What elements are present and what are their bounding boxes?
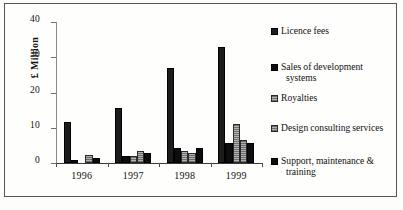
bar xyxy=(122,156,129,163)
legend-item[interactable]: Sales of developmentsystems xyxy=(271,62,395,83)
legend-label-line2: training xyxy=(281,167,374,178)
bar xyxy=(144,153,151,163)
x-axis-tick-mark xyxy=(159,163,160,167)
legend-label: Design consulting services xyxy=(281,123,383,134)
bar-group xyxy=(159,22,211,163)
legend-swatch-icon xyxy=(271,64,278,71)
y-axis-tick-label: 10 xyxy=(4,121,40,131)
legend-swatch-icon xyxy=(271,158,278,165)
legend-item[interactable]: Royalties xyxy=(271,93,395,104)
bar xyxy=(130,156,137,163)
legend-label-line2: systems xyxy=(281,73,363,84)
bar xyxy=(188,153,195,163)
bar xyxy=(93,158,100,163)
x-axis-tick-mark xyxy=(56,163,57,167)
bar xyxy=(247,143,254,163)
legend-label: Support, maintenance &training xyxy=(281,156,374,177)
bar xyxy=(196,148,203,163)
x-axis-tick-label: 1997 xyxy=(113,170,153,181)
legend-swatch-icon xyxy=(271,95,278,102)
bar xyxy=(240,140,247,163)
legend-item[interactable]: Licence fees xyxy=(271,26,395,37)
y-axis-tick-label: 40 xyxy=(4,15,40,25)
bar xyxy=(233,124,240,163)
y-axis-tick-label: 30 xyxy=(4,50,40,60)
x-axis-tick-mark xyxy=(211,163,212,167)
bar-group xyxy=(56,22,108,163)
bar xyxy=(181,151,188,163)
x-axis-tick-label: 1996 xyxy=(62,170,102,181)
legend-swatch-icon xyxy=(271,28,278,35)
legend-label: Sales of developmentsystems xyxy=(281,62,363,83)
bar xyxy=(64,122,71,163)
bar xyxy=(218,47,225,163)
legend-swatch-icon xyxy=(271,125,278,132)
x-axis-tick-mark xyxy=(108,163,109,167)
y-axis-tick-label: 20 xyxy=(4,86,40,96)
y-axis-tick-label: 0 xyxy=(4,156,40,166)
figure: £ Million 010203040 1996199719981999 Lic… xyxy=(0,0,403,210)
bar-group xyxy=(211,22,263,163)
bar xyxy=(115,108,122,163)
bar xyxy=(174,148,181,164)
x-axis-tick-label: 1998 xyxy=(165,170,205,181)
bar-group xyxy=(108,22,160,163)
x-axis-tick-label: 1999 xyxy=(216,170,256,181)
bar xyxy=(167,68,174,163)
bar xyxy=(225,143,232,163)
legend-label: Royalties xyxy=(281,93,317,104)
bar xyxy=(85,155,92,163)
bar-series-container xyxy=(56,22,262,163)
x-axis-tick-mark xyxy=(262,163,263,167)
bar xyxy=(137,151,144,163)
legend-item[interactable]: Design consulting services xyxy=(271,123,395,134)
bar xyxy=(71,160,78,163)
legend-label: Licence fees xyxy=(281,26,329,37)
legend-item[interactable]: Support, maintenance &training xyxy=(271,156,395,177)
